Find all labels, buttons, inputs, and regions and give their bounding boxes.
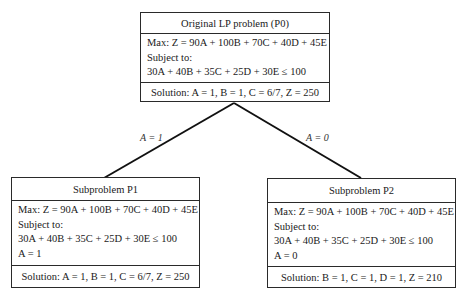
node-p2-subject-to: Subject to:: [274, 220, 449, 235]
node-p2-constraint: 30A + 40B + 35C + 25D + 30E ≤ 100: [274, 234, 449, 249]
node-p2-branch-constraint: A = 0: [274, 249, 449, 264]
node-p2-title: Subproblem P2: [268, 179, 455, 203]
edge-p0-p1: [104, 103, 234, 178]
node-p0-constraint: 30A + 40B + 35C + 25D + 30E ≤ 100: [147, 65, 323, 80]
node-p2-body: Max: Z = 90A + 100B + 70C + 40D + 45E Su…: [268, 203, 455, 263]
node-p0-title: Original LP problem (P0): [141, 13, 329, 34]
node-p2-objective: Max: Z = 90A + 100B + 70C + 40D + 45E: [274, 205, 449, 220]
node-p0: Original LP problem (P0) Max: Z = 90A + …: [140, 12, 330, 102]
node-p1-branch-constraint: A = 1: [18, 247, 193, 262]
node-p2: Subproblem P2 Max: Z = 90A + 100B + 70C …: [267, 178, 456, 288]
node-p0-objective: Max: Z = 90A + 100B + 70C + 40D + 45E: [147, 36, 323, 51]
node-p0-subject-to: Subject to:: [147, 51, 323, 66]
node-p1-body: Max: Z = 90A + 100B + 70C + 40D + 45E Su…: [12, 201, 199, 261]
node-p2-solution: Solution: B = 1, C = 1, D = 1, Z = 210: [268, 266, 455, 287]
node-p1-objective: Max: Z = 90A + 100B + 70C + 40D + 45E: [18, 203, 193, 218]
node-p0-body: Max: Z = 90A + 100B + 70C + 40D + 45E Su…: [141, 34, 329, 80]
edge-label-a-equals-1: A = 1: [140, 132, 163, 143]
node-p1-constraint: 30A + 40B + 35C + 25D + 30E ≤ 100: [18, 232, 193, 247]
node-p1: Subproblem P1 Max: Z = 90A + 100B + 70C …: [11, 177, 200, 288]
node-p1-subject-to: Subject to:: [18, 218, 193, 233]
edge-p0-p2: [234, 103, 361, 178]
node-p1-title: Subproblem P1: [12, 178, 199, 201]
edge-label-a-equals-0: A = 0: [306, 132, 329, 143]
node-p1-solution: Solution: A = 1, B = 1, C = 6/7, Z = 250: [12, 265, 199, 287]
node-p0-solution: Solution: A = 1, B = 1, C = 6/7, Z = 250: [141, 82, 329, 101]
